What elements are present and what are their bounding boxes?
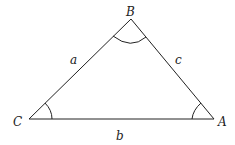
vertex-label-a: A [217, 115, 227, 129]
vertex-label-b: B [125, 5, 135, 19]
angle-arc-b [113, 36, 146, 43]
angle-arc-c [45, 103, 52, 119]
side-label-c: c [175, 53, 182, 67]
side-label-b: b [116, 129, 124, 143]
angle-arc-a [192, 103, 201, 119]
vertex-label-c: C [13, 115, 22, 129]
triangle-diagram: B C A a c b [0, 0, 235, 145]
side-label-a: a [70, 53, 77, 67]
triangle [29, 19, 214, 119]
